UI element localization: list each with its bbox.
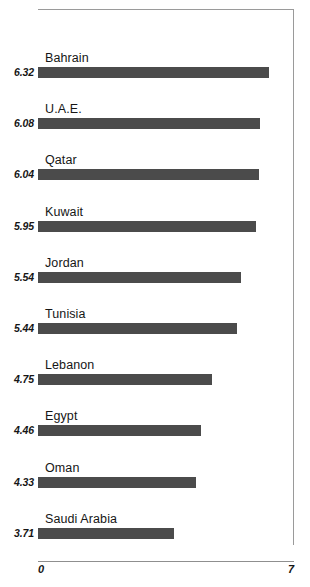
bar-value-label: 4.33 [0,477,34,488]
bar-track [38,272,294,283]
bar-value-label: 6.08 [0,118,34,129]
bar-track [38,425,294,436]
bar [38,221,256,232]
bar-category-label: Jordan [45,257,84,270]
bar-track [38,323,294,334]
bar-row: Jordan5.54 [0,249,310,283]
bar-row: Lebanon4.75 [0,351,310,385]
bar-value-label: 4.75 [0,374,34,385]
bar-track [38,477,294,488]
bar [38,169,259,180]
bar-value-label: 6.04 [0,169,34,180]
bar-row: Oman4.33 [0,454,310,488]
bar-row: Bahrain6.32 [0,44,310,78]
bar-value-label: 3.71 [0,528,34,539]
bar-category-label: Tunisia [45,308,86,321]
bar-row: Qatar6.04 [0,146,310,180]
bar-value-label: 5.44 [0,323,34,334]
bar-value-label: 6.32 [0,67,34,78]
bar-row: Kuwait5.95 [0,198,310,232]
bar-category-label: Oman [45,462,79,475]
bar-category-label: Egypt [45,410,77,423]
bar-category-label: Lebanon [45,359,94,372]
plot-area: Bahrain6.32U.A.E.6.08Qatar6.04Kuwait5.95… [0,0,310,560]
bar [38,67,269,78]
bar [38,272,241,283]
bar-category-label: Kuwait [45,206,83,219]
bar-row: Tunisia5.44 [0,300,310,334]
bar-track [38,374,294,385]
bar-track [38,118,294,129]
bar-category-label: Saudi Arabia [45,513,117,526]
bar-track [38,67,294,78]
bar [38,528,174,539]
bar-value-label: 5.54 [0,272,34,283]
x-axis-line [38,561,294,562]
bar-category-label: U.A.E. [45,103,82,116]
bar-row: U.A.E.6.08 [0,95,310,129]
bar [38,118,260,129]
bar-row: Saudi Arabia3.71 [0,505,310,539]
bar [38,323,237,334]
bar [38,425,201,436]
bar-value-label: 5.95 [0,221,34,232]
bar [38,374,212,385]
bar-value-label: 4.46 [0,425,34,436]
x-axis-tick-min: 0 [38,563,44,575]
bar-category-label: Bahrain [45,52,89,65]
bar-row: Egypt4.46 [0,402,310,436]
x-axis-tick-labels: 0 7 [38,563,294,581]
bar-track [38,221,294,232]
x-axis-tick-max: 7 [288,563,294,575]
bar-category-label: Qatar [45,154,77,167]
bar-chart: Bahrain6.32U.A.E.6.08Qatar6.04Kuwait5.95… [0,0,310,587]
bar-track [38,528,294,539]
bar-track [38,169,294,180]
bar [38,477,196,488]
